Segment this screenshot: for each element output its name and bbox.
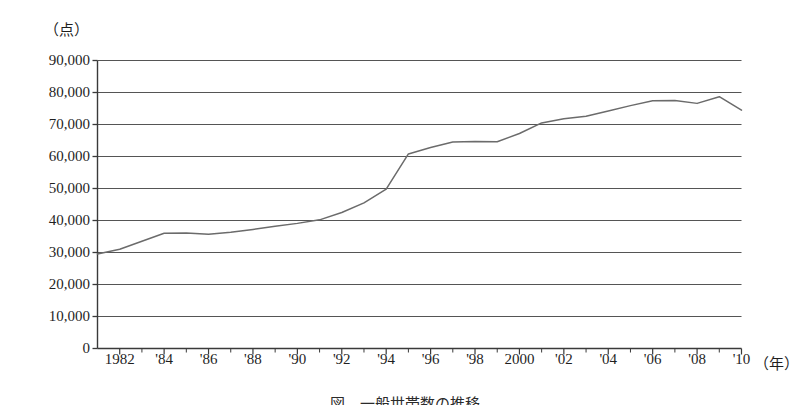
x-tick-label: '84 <box>155 352 173 367</box>
x-tick-label: '92 <box>333 352 351 367</box>
x-tick-label: '98 <box>466 352 484 367</box>
x-axis-tick-labels: （年） 1982'84'86'88'90'92'94'96'982000'02'… <box>0 0 809 405</box>
x-tick-label: 1982 <box>105 352 135 367</box>
x-tick-label: 2000 <box>504 352 534 367</box>
x-tick-label: '08 <box>688 352 706 367</box>
x-axis-unit-label: （年） <box>754 352 799 373</box>
line-chart-figure: （点） 010,00020,00030,00040,00050,00060,00… <box>0 0 809 405</box>
x-tick-label: '88 <box>244 352 262 367</box>
x-tick-label: '96 <box>422 352 440 367</box>
x-tick-label: '10 <box>733 352 751 367</box>
x-tick-label: '04 <box>599 352 617 367</box>
figure-caption: 図 一般世帯数の推移 <box>0 392 809 405</box>
x-tick-label: '06 <box>644 352 662 367</box>
x-tick-label: '94 <box>377 352 395 367</box>
x-tick-label: '86 <box>200 352 218 367</box>
x-tick-label: '02 <box>555 352 573 367</box>
x-tick-label: '90 <box>289 352 307 367</box>
